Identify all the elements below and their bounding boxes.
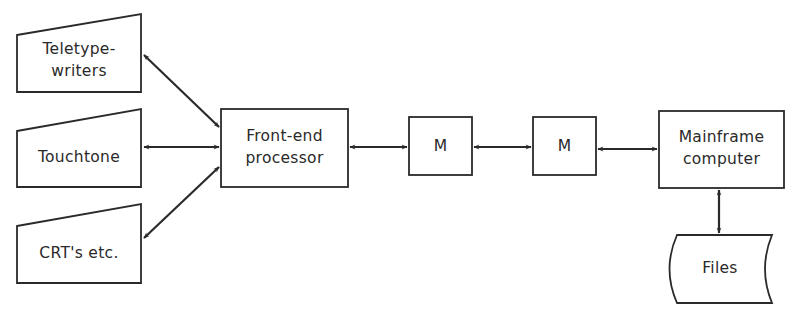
teletype-label: Teletype- writers — [17, 38, 141, 82]
mainframe-label: Mainframe computer — [659, 126, 784, 170]
edge-crt-frontend — [144, 167, 219, 238]
crt-label: CRT's etc. — [17, 242, 141, 264]
frontend-label: Front-end processor — [221, 125, 348, 169]
touchtone-label: Touchtone — [17, 146, 141, 168]
edge-teletype-frontend — [144, 55, 219, 127]
modem1-label: M — [409, 135, 472, 157]
modem2-label: M — [533, 135, 596, 157]
files-label: Files — [670, 257, 770, 279]
